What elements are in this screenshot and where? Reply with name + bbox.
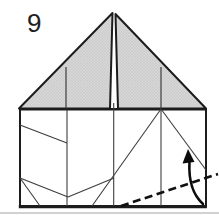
- scan-edge-line: [0, 212, 219, 214]
- origami-step-figure: 9: [0, 0, 219, 215]
- origami-diagram: [0, 0, 219, 215]
- paper-base-panel: [20, 109, 206, 207]
